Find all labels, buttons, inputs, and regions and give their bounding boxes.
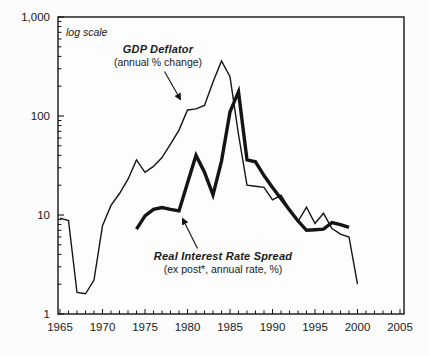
real-spread-label: Real Interest Rate Spread xyxy=(154,250,292,263)
x-axis-labels: 196519701975198019851990199520002005 xyxy=(47,321,413,333)
x-tick-label: 1990 xyxy=(260,321,286,333)
y-tick-label: 1,000 xyxy=(21,11,50,23)
y-tick-label: 100 xyxy=(31,110,50,122)
log-scale-note: log scale xyxy=(66,26,107,38)
gdp-deflator-sublabel: (annual % change) xyxy=(114,56,202,68)
x-tick-label: 1970 xyxy=(90,321,116,333)
chart-canvas: 1,000100101 1965197019751980198519901995… xyxy=(0,0,429,356)
y-axis-labels: 1,000100101 xyxy=(21,11,50,320)
chart-figure: 1,000100101 1965197019751980198519901995… xyxy=(0,0,429,356)
x-tick-label: 1985 xyxy=(217,321,243,333)
real-spread-annotation: Real Interest Rate Spread (ex post*, ann… xyxy=(154,250,292,275)
y-tick-label: 10 xyxy=(37,209,50,221)
gdp-deflator-annotation: GDP Deflator (annual % change) xyxy=(114,43,202,68)
gdp-deflator-label: GDP Deflator xyxy=(114,43,202,56)
x-tick-label: 2005 xyxy=(387,321,413,333)
y-tick-label: 1 xyxy=(44,308,50,320)
x-tick-label: 1975 xyxy=(132,321,158,333)
real-spread-sublabel: (ex post*, annual rate, %) xyxy=(154,263,292,275)
x-tick-label: 2000 xyxy=(345,321,371,333)
x-tick-label: 1995 xyxy=(302,321,328,333)
x-tick-label: 1965 xyxy=(47,321,73,333)
x-tick-label: 1980 xyxy=(175,321,201,333)
